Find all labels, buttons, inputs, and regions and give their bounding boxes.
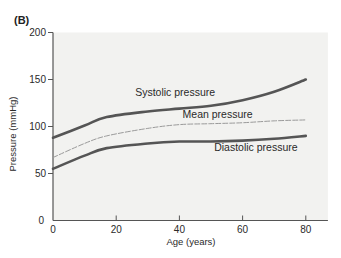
x-tick-label: 40 [174, 224, 186, 235]
y-tick-label: 200 [29, 27, 46, 38]
plot-area [53, 33, 328, 221]
mean-pressure-label: Mean pressure [183, 108, 253, 120]
x-tick-label: 80 [300, 224, 312, 235]
x-tick-label: 60 [237, 224, 249, 235]
x-tick-label: 20 [111, 224, 123, 235]
diastolic-pressure-label: Diastolic pressure [214, 141, 298, 153]
blood-pressure-line-chart: 050100150200020406080 Systolic pressureM… [0, 0, 341, 258]
x-axis-label: Age (years) [166, 236, 215, 247]
systolic-pressure-label: Systolic pressure [135, 86, 215, 98]
x-tick-label: 0 [50, 224, 56, 235]
y-axis-label: Pressure (mmHg) [7, 97, 18, 172]
y-tick-label: 100 [29, 121, 46, 132]
y-tick-label: 150 [29, 74, 46, 85]
y-tick-label: 50 [35, 168, 47, 179]
y-tick-label: 0 [38, 215, 44, 226]
